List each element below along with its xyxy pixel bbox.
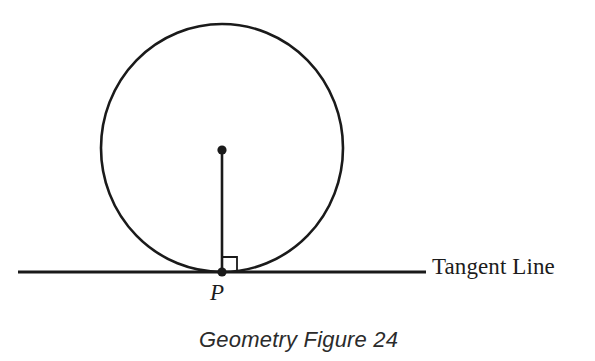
tangent-line-label: Tangent Line [432,255,555,278]
figure-caption: Geometry Figure 24 [199,329,398,351]
center-point-dot [217,145,226,154]
geometry-figure-stage: Tangent Line P Geometry Figure 24 [0,0,595,361]
tangent-point-dot [217,267,226,276]
point-p-label: P [210,281,224,304]
geometry-diagram [0,0,595,361]
